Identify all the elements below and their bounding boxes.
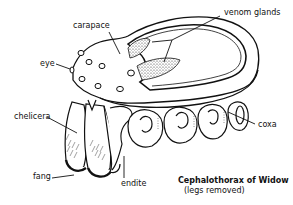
label-fang: fang: [33, 173, 51, 181]
diagram-title: Cephalothorax of Widow: [178, 176, 289, 185]
label-endite: endite: [121, 180, 146, 188]
coxae: [128, 102, 248, 147]
eye-icon: [70, 67, 74, 73]
label-chelicera: chelicera: [14, 113, 50, 121]
label-venom-glands: venom glands: [224, 9, 280, 17]
eye-icon: [78, 50, 84, 55]
eye-icon: [86, 59, 92, 64]
eye-icon: [128, 70, 135, 76]
eye-icon: [99, 63, 105, 68]
eye-icon: [79, 76, 85, 81]
label-coxa: coxa: [258, 121, 277, 129]
label-carapace: carapace: [73, 22, 110, 30]
eye-icon: [95, 83, 101, 88]
diagram-subtitle: (legs removed): [184, 186, 245, 195]
chelicerae: [65, 100, 120, 177]
label-eye: eye: [40, 60, 55, 68]
eye-icon: [117, 86, 124, 91]
